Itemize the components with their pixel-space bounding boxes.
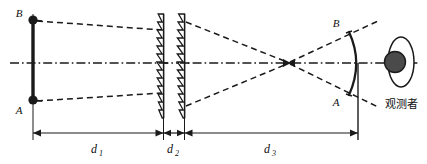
optical-ray-diagram-figure: B A B A d 1 d 2 d 3 观测者 (0, 0, 427, 164)
diagram-canvas: B A B A d 1 d 2 d 3 观测者 (0, 0, 427, 164)
ray-a-to-lens (37, 93, 162, 101)
ray-bundle-lens-to-focus (186, 22, 287, 106)
dimension-d1-symbol: d (91, 142, 98, 156)
fresnel-lens-2 (177, 14, 189, 118)
ray-bundle-object-to-lens (37, 21, 162, 101)
image-label-b: B (333, 17, 340, 29)
observer-eye (385, 37, 415, 87)
dimension-label-d2: d 2 (167, 142, 179, 158)
ray-b-to-lens (37, 21, 162, 30)
dimension-d2-symbol: d (167, 142, 174, 156)
observer-label: 观测者 (385, 98, 418, 111)
object-point-a (28, 95, 37, 104)
object-arrow (28, 14, 42, 140)
dimension-d3 (185, 130, 359, 137)
image-label-a: A (332, 96, 340, 108)
dimension-label-d1: d 1 (91, 142, 103, 158)
virtual-image-arc (346, 31, 358, 140)
object-point-b (28, 15, 37, 24)
dimension-d3-symbol: d (264, 142, 271, 156)
dimension-d3-subscript: 3 (271, 149, 276, 158)
object-label-b: B (16, 7, 23, 19)
dimension-d1-subscript: 1 (99, 149, 103, 158)
ray-bundle-focus-to-image (290, 21, 378, 107)
dimension-label-d3: d 3 (264, 142, 276, 158)
ray-upper-converging (186, 22, 287, 62)
object-label-a: A (15, 104, 23, 116)
ray-lower-converging (186, 64, 287, 106)
dimension-d2-subscript: 2 (175, 149, 179, 158)
dimension-d1 (33, 118, 164, 140)
fresnel-lens-1 (157, 14, 168, 118)
dimension-d2 (164, 118, 185, 140)
